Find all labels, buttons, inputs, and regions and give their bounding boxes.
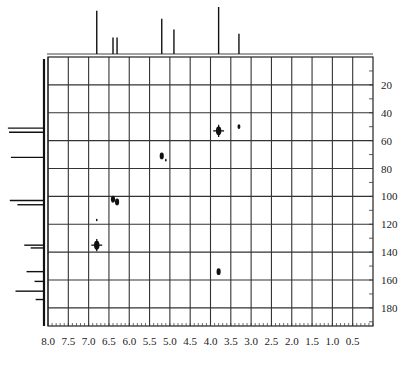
x-tick-label: 0.5 — [346, 335, 360, 347]
x-tick-label: 7.0 — [82, 335, 96, 347]
cross-peak — [115, 199, 119, 206]
x-tick-label: 4.5 — [183, 335, 197, 347]
x-tick-label: 6.0 — [122, 335, 136, 347]
x-tick-label: 1.5 — [305, 335, 319, 347]
top-projection-spectrum — [97, 7, 239, 54]
left-projection-spectrum — [8, 128, 44, 299]
plot-grid — [48, 57, 373, 326]
y-tick-label: 100 — [381, 190, 398, 202]
y-tick-label: 140 — [381, 246, 398, 258]
x-tick-label: 5.5 — [143, 335, 157, 347]
x-tick-label: 3.5 — [224, 335, 238, 347]
figure-caption — [120, 352, 320, 364]
cross-peak — [165, 159, 167, 162]
x-tick-label: 7.5 — [61, 335, 75, 347]
y-tick-label: 60 — [381, 135, 393, 147]
plot-frame — [44, 54, 373, 326]
y-tick-label: 160 — [381, 274, 398, 286]
x-tick-label: 3.0 — [244, 335, 258, 347]
y-tick-label: 180 — [381, 302, 398, 314]
x-tick-label: 8.0 — [41, 335, 55, 347]
cross-peak — [160, 153, 164, 160]
x-tick-label: 1.0 — [326, 335, 340, 347]
cross-peak — [111, 196, 115, 203]
cross-peak — [237, 124, 240, 129]
x-tick-label: 2.0 — [285, 335, 299, 347]
y-tick-label: 80 — [381, 163, 393, 175]
cross-peak — [96, 219, 98, 222]
x-tick-label: 6.5 — [102, 335, 116, 347]
x-tick-label: 5.0 — [163, 335, 177, 347]
y-tick-label: 40 — [381, 107, 393, 119]
x-tick-label: 2.5 — [265, 335, 279, 347]
y-tick-label: 120 — [381, 218, 398, 230]
cross-peak — [217, 268, 221, 275]
nmr-2d-spectrum: 8.07.57.06.56.05.55.04.54.03.53.02.52.01… — [0, 0, 398, 365]
x-tick-label: 4.0 — [204, 335, 218, 347]
y-tick-label: 20 — [381, 79, 393, 91]
